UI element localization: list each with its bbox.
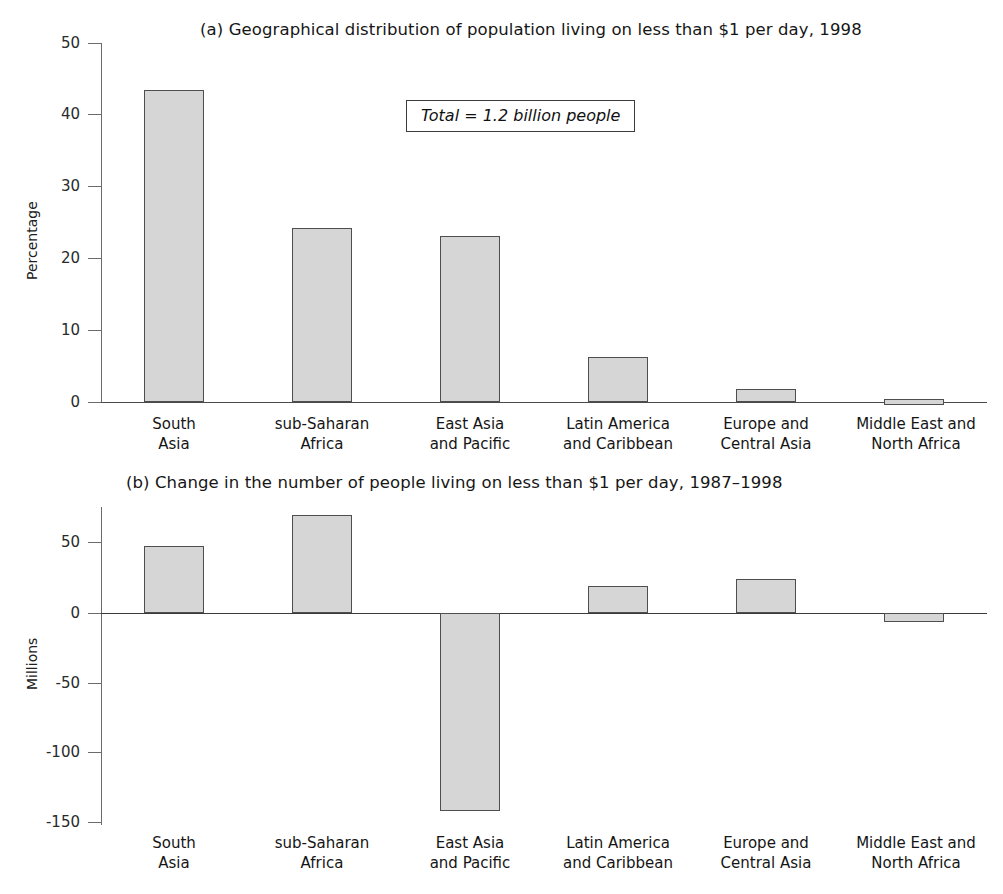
category-label-line2: and Caribbean	[548, 853, 688, 873]
panel-b-ytick-0: 0	[8, 604, 80, 622]
bar-b-europe-central	[736, 579, 796, 613]
panel-a-x-axis-line	[101, 402, 987, 403]
panel-b-category-label-3: Latin America and Caribbean	[548, 833, 688, 873]
panel-b-tick-50	[88, 542, 102, 543]
panel-b-tick-0	[88, 613, 102, 614]
category-label-line1: Latin America	[548, 833, 688, 853]
panel-a-ytick-40: 40	[8, 105, 80, 123]
category-label-line2: Africa	[252, 434, 392, 454]
panel-a-category-label-4: Europe and Central Asia	[696, 414, 836, 454]
panel-b-ytick-m100: -100	[8, 743, 80, 761]
panel-a-tick-0	[88, 402, 102, 403]
panel-b-category-label-0: South Asia	[104, 833, 244, 873]
category-label-line2: Central Asia	[696, 434, 836, 454]
bar-b-east-asia	[440, 613, 500, 811]
panel-b-title: (b) Change in the number of people livin…	[126, 473, 783, 492]
panel-b-ytick-m50: -50	[8, 674, 80, 692]
panel-a-category-label-5: Middle East and North Africa	[840, 414, 992, 454]
chart-panel-a: (a) Geographical distribution of populat…	[0, 0, 1003, 465]
category-label-line2: Africa	[252, 853, 392, 873]
figure-root: (a) Geographical distribution of populat…	[0, 0, 1003, 894]
panel-a-ytick-10: 10	[8, 321, 80, 339]
panel-a-category-label-2: East Asia and Pacific	[400, 414, 540, 454]
panel-a-tick-10	[88, 330, 102, 331]
panel-b-tick-m100	[88, 752, 102, 753]
panel-a-category-label-1: sub-Saharan Africa	[252, 414, 392, 454]
category-label-line1: Middle East and	[840, 833, 992, 853]
category-label-line1: East Asia	[400, 833, 540, 853]
category-label-line2: Asia	[104, 853, 244, 873]
bar-b-middle-east	[884, 613, 944, 622]
panel-a-tick-40	[88, 114, 102, 115]
category-label-line2: and Caribbean	[548, 434, 688, 454]
panel-a-title: (a) Geographical distribution of populat…	[200, 20, 862, 39]
chart-panel-b: (b) Change in the number of people livin…	[0, 465, 1003, 894]
bar-b-latin-america	[588, 586, 648, 613]
panel-b-zero-line	[101, 613, 987, 614]
panel-b-tick-m150	[88, 822, 102, 823]
panel-a-tick-20	[88, 258, 102, 259]
panel-b-category-label-4: Europe and Central Asia	[696, 833, 836, 873]
category-label-line2: Asia	[104, 434, 244, 454]
category-label-line2: Central Asia	[696, 853, 836, 873]
bar-a-east-asia	[440, 236, 500, 402]
bar-a-sub-saharan	[292, 228, 352, 402]
panel-a-category-label-0: South Asia	[104, 414, 244, 454]
category-label-line2: North Africa	[840, 853, 992, 873]
panel-a-category-label-3: Latin America and Caribbean	[548, 414, 688, 454]
panel-a-ytick-30: 30	[8, 177, 80, 195]
category-label-line1: Latin America	[548, 414, 688, 434]
total-annotation-box: Total = 1.2 billion people	[406, 100, 635, 132]
panel-a-y-axis-line	[101, 43, 102, 403]
category-label-line1: sub-Saharan	[252, 833, 392, 853]
bar-a-south-asia	[144, 90, 204, 402]
bar-a-europe-central	[736, 389, 796, 402]
panel-b-category-label-5: Middle East and North Africa	[840, 833, 992, 873]
panel-b-category-label-2: East Asia and Pacific	[400, 833, 540, 873]
category-label-line2: and Pacific	[400, 853, 540, 873]
category-label-line1: Middle East and	[840, 414, 992, 434]
panel-a-tick-30	[88, 186, 102, 187]
category-label-line2: North Africa	[840, 434, 992, 454]
category-label-line2: and Pacific	[400, 434, 540, 454]
panel-b-category-label-1: sub-Saharan Africa	[252, 833, 392, 873]
panel-b-y-axis-line	[101, 507, 102, 825]
panel-b-tick-m50	[88, 683, 102, 684]
category-label-line1: Europe and	[696, 414, 836, 434]
bar-a-middle-east	[884, 399, 944, 405]
category-label-line1: sub-Saharan	[252, 414, 392, 434]
panel-a-ytick-20: 20	[8, 249, 80, 267]
panel-b-ytick-m150: -150	[8, 813, 80, 831]
panel-a-ylabel: Percentage	[24, 201, 40, 280]
category-label-line1: East Asia	[400, 414, 540, 434]
bar-b-sub-saharan	[292, 515, 352, 613]
panel-a-ytick-0: 0	[8, 393, 80, 411]
category-label-line1: South	[104, 414, 244, 434]
panel-a-ytick-50: 50	[8, 34, 80, 52]
panel-b-ytick-50: 50	[8, 533, 80, 551]
bar-b-south-asia	[144, 546, 204, 613]
category-label-line1: Europe and	[696, 833, 836, 853]
bar-a-latin-america	[588, 357, 648, 402]
panel-a-tick-50	[88, 43, 102, 44]
category-label-line1: South	[104, 833, 244, 853]
